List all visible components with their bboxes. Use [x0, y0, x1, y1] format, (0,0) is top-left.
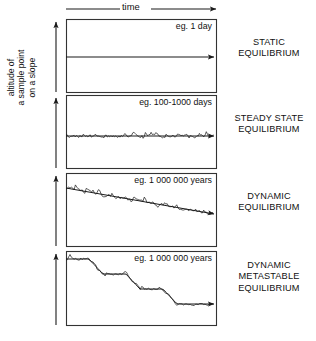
panel-boxes — [67, 20, 217, 326]
trend-dynamic — [66, 188, 214, 214]
trend-dynamic-metastable — [66, 259, 214, 304]
state-label-line: EQUILIBRIUM — [222, 283, 316, 294]
timescale-label-static: eg. 1 day — [130, 21, 212, 31]
timescale-label-steady-state: eg. 100-1000 days — [118, 97, 212, 107]
state-label-line: STATIC — [222, 37, 316, 48]
state-label-dynamic: DYNAMICEQUILIBRIUM — [222, 191, 316, 214]
state-label-line: EQUILIBRIUM — [222, 124, 316, 135]
state-label-line: DYNAMIC — [222, 191, 316, 202]
state-label-line: METASTABLE — [222, 271, 316, 282]
y-axis-label: altitude of a sample point on a slope — [6, 18, 37, 138]
state-label-line: EQUILIBRIUM — [222, 48, 316, 59]
y-axis-label-line-2: a sample point — [17, 18, 27, 138]
state-label-dynamic-metastable: DYNAMICMETASTABLEEQUILIBRIUM — [222, 260, 316, 294]
state-label-static: STATICEQUILIBRIUM — [222, 37, 316, 60]
state-label-line: EQUILIBRIUM — [222, 202, 316, 213]
timescale-label-dynamic: eg. 1 000 000 years — [122, 175, 212, 185]
trace-steady-state — [66, 132, 213, 139]
equilibrium-types-diagram: altitude of a sample point on a slope ti… — [0, 0, 316, 341]
x-axis-label: time — [120, 1, 142, 12]
state-label-steady-state: STEADY STATEEQUILIBRIUM — [222, 113, 316, 136]
state-label-line: STEADY STATE — [222, 113, 316, 124]
y-axis-label-line-1: altitude of — [6, 18, 16, 138]
timescale-label-dynamic-metastable: eg. 1 000 000 years — [122, 253, 212, 263]
y-axis-label-line-3: on a slope — [27, 18, 37, 138]
state-label-line: DYNAMIC — [222, 260, 316, 271]
